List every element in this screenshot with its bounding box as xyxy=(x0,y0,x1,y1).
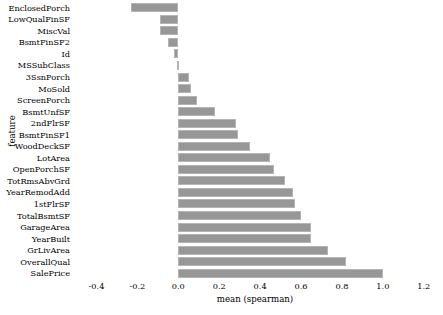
bar xyxy=(178,199,295,208)
bar xyxy=(178,246,327,255)
y-tick-label: BsmtUnfSF xyxy=(22,107,70,116)
y-tick-label: 2ndFlrSF xyxy=(31,119,70,128)
y-tick-label: SalePrice xyxy=(31,269,70,278)
bar xyxy=(178,269,383,278)
bar xyxy=(178,153,270,162)
y-axis-title: feature xyxy=(7,101,17,161)
y-tick-label: LowQualFinSF xyxy=(8,15,70,24)
x-tick-label: 0.2 xyxy=(213,281,226,291)
bar xyxy=(178,234,311,243)
bar xyxy=(177,61,179,70)
y-tick-label: BsmtFinSF2 xyxy=(19,38,70,47)
y-tick-label: YearRemodAdd xyxy=(6,188,70,197)
bar xyxy=(178,84,190,93)
y-tick-label: 1stFlrSF xyxy=(34,199,70,208)
x-tick-label: 0.8 xyxy=(335,281,348,291)
x-axis-title: mean (spearman) xyxy=(76,294,434,304)
y-tick-label: OverallQual xyxy=(20,257,70,266)
bar xyxy=(178,107,215,116)
bar xyxy=(178,130,237,139)
y-tick-label: TotalBsmtSF xyxy=(17,211,70,220)
y-tick-label: MiscVal xyxy=(38,26,70,35)
bar xyxy=(160,26,178,35)
y-tick-label: 3SsnPorch xyxy=(26,73,70,82)
bar xyxy=(178,165,274,174)
bar xyxy=(178,211,301,220)
x-tick-label: 0.0 xyxy=(172,281,185,291)
x-tick-label: 1.0 xyxy=(376,281,389,291)
bar xyxy=(178,176,284,185)
y-tick-label: LotArea xyxy=(37,153,70,162)
y-tick-label: OpenPorchSF xyxy=(13,165,70,174)
y-tick-label: Id xyxy=(62,49,70,58)
bar xyxy=(178,223,311,232)
bar xyxy=(131,3,178,12)
y-tick-label: MSSubClass xyxy=(18,61,70,70)
bar xyxy=(178,73,188,82)
bar xyxy=(168,38,178,47)
bar xyxy=(174,49,178,58)
y-tick-label: GarageArea xyxy=(20,223,70,232)
bar xyxy=(178,257,346,266)
y-tick-label: BsmtFinSF1 xyxy=(19,130,70,139)
bar xyxy=(178,142,250,151)
y-tick-label: WoodDeckSF xyxy=(15,142,70,151)
spearman-correlation-bar-chart: EnclosedPorchLowQualFinSFMiscValBsmtFinS… xyxy=(0,0,443,315)
bar xyxy=(178,188,293,197)
x-tick-label: 1.2 xyxy=(417,281,430,291)
x-tick-label: 0.6 xyxy=(295,281,308,291)
y-tick-label: TotRmsAbvGrd xyxy=(7,176,70,185)
bar xyxy=(178,119,235,128)
y-tick-label: MoSold xyxy=(38,84,70,93)
x-tick-label: -0.4 xyxy=(89,281,105,291)
y-tick-label: GrLivArea xyxy=(27,246,70,255)
y-tick-label: ScreenPorch xyxy=(17,96,70,105)
plot-area xyxy=(76,2,434,279)
x-tick-label: 0.4 xyxy=(254,281,267,291)
y-tick-label: EnclosedPorch xyxy=(8,3,70,12)
bar xyxy=(178,96,196,105)
bar xyxy=(160,15,178,24)
x-tick-label: -0.2 xyxy=(129,281,145,291)
x-axis-tick-labels: -0.4-0.20.00.20.40.60.81.01.2 xyxy=(76,281,434,295)
y-tick-label: YearBuilt xyxy=(32,234,70,243)
